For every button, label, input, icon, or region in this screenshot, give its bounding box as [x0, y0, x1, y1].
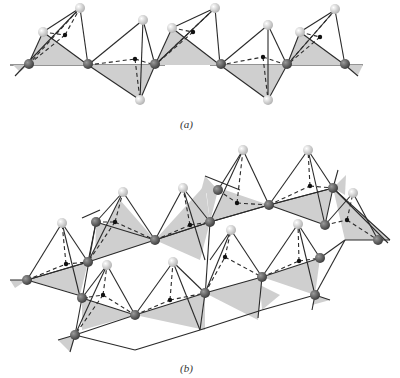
- panel-b-double-chain: [10, 150, 390, 352]
- panel-a-caption: (a): [180, 118, 193, 130]
- panel-a-single-chain: [10, 8, 363, 100]
- panel-b-caption: (b): [180, 362, 193, 374]
- silicate-chain-diagram: [0, 0, 400, 378]
